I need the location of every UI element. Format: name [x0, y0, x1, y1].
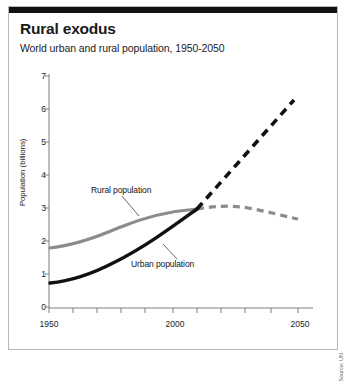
y-tick-marks — [45, 76, 49, 307]
urban-label-leader — [163, 244, 177, 259]
rural-series-annotation: Rural population — [91, 185, 151, 195]
x-tick-marks — [49, 308, 298, 313]
urban-series-annotation: Urban population — [131, 259, 194, 269]
rural-line-projected — [197, 206, 298, 219]
rural-label-leader — [122, 196, 139, 216]
urban-line-historic — [50, 209, 197, 283]
urban-line-projected — [197, 100, 294, 209]
rural-line-historic — [50, 209, 197, 248]
source-note: Source: UN — [338, 353, 344, 381]
